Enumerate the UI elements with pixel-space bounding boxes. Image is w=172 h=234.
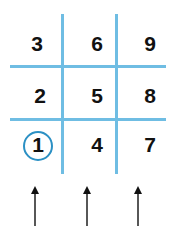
cell-number-circled: 1 [23,133,53,157]
cell-number: 6 [82,32,112,56]
grid-vertical-line-1 [61,14,64,174]
cell-number: 4 [82,133,112,157]
cell-number: 3 [22,32,52,56]
grid-vertical-line-2 [115,14,118,174]
cell-number: 9 [135,32,165,56]
up-arrow-icon [132,186,144,226]
grid-horizontal-line-1 [10,65,166,68]
cell-number: 8 [135,84,165,108]
up-arrow-icon [81,186,93,226]
grid-horizontal-line-2 [10,118,166,121]
cell-number: 2 [25,84,55,108]
cell-number: 7 [135,133,165,157]
cell-number: 5 [82,84,112,108]
up-arrow-icon [29,186,41,226]
